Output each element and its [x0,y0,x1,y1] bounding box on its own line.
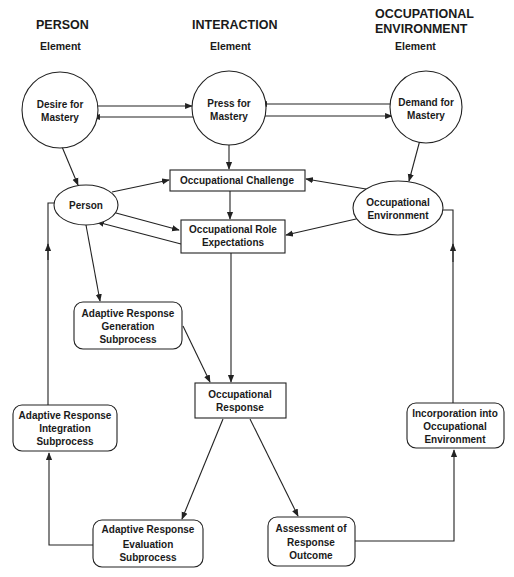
response-label-line2: Response [216,402,264,413]
evaluation-label-line3: Subprocess [119,552,177,563]
integration-label-line3: Subprocess [36,436,94,447]
edge-integration-to-person-line [48,203,55,405]
edge-person-to-challenge [112,180,169,192]
edge-evaluation-to-integration [49,453,93,545]
node-incorporation-into-environment: Incorporation into Occupational Environm… [407,403,504,448]
edge-demand-to-environment [409,140,420,181]
generation-label-line3: Subprocess [99,334,157,345]
environment-subtitle: Element [395,40,436,52]
evaluation-label-line1: Adaptive Response [102,524,195,535]
response-label-line1: Occupational [208,389,272,400]
node-press-for-mastery: Press for Mastery [192,71,266,145]
interaction-subtitle: Element [210,40,251,52]
person-label: Person [69,200,103,211]
node-person: Person [54,185,118,225]
occupational-adaptation-diagram: PERSON Element INTERACTION Element OCCUP… [0,0,514,577]
environment-label-line2: Environment [367,210,429,221]
interaction-title: INTERACTION [192,18,277,32]
desire-label-line2: Mastery [41,112,79,123]
person-subtitle: Element [40,40,81,52]
node-occupational-environment: Occupational Environment [353,181,443,235]
role-label-line2: Expectations [202,237,265,248]
assessment-label-line3: Outcome [289,550,333,561]
edge-environment-to-role [286,219,356,235]
incorporation-label-line3: Environment [424,434,486,445]
column-header-person: PERSON Element [36,18,89,52]
generation-label-line1: Adaptive Response [82,308,175,319]
edge-environment-to-challenge [306,179,366,189]
edge-person-to-generation [86,225,100,301]
column-header-environment: OCCUPATIONAL ENVIRONMENT Element [375,7,474,52]
environment-label-line1: Occupational [366,197,430,208]
demand-label-line1: Demand for [398,97,454,108]
edge-role-to-person [97,222,181,244]
integration-label-line1: Adaptive Response [19,410,112,421]
node-occupational-challenge: Occupational Challenge [170,170,305,191]
edge-assessment-to-incorporation [355,450,454,541]
environment-title-line2: ENVIRONMENT [375,22,468,36]
column-header-interaction: INTERACTION Element [192,18,277,52]
edge-response-to-assessment [250,419,298,516]
edge-generation-to-response [183,326,210,382]
assessment-label-line2: Response [287,537,335,548]
integration-label-line2: Integration [39,423,91,434]
press-label-line2: Mastery [210,111,248,122]
node-adaptive-response-evaluation: Adaptive Response Evaluation Subprocess [93,520,203,567]
node-demand-for-mastery: Demand for Mastery [390,71,462,143]
environment-title-line1: OCCUPATIONAL [375,7,474,21]
person-title: PERSON [36,18,89,32]
demand-label-line2: Mastery [407,110,445,121]
node-adaptive-response-integration: Adaptive Response Integration Subprocess [13,405,117,451]
node-occupational-role-expectations: Occupational Role Expectations [181,220,285,253]
evaluation-label-line2: Evaluation [123,539,174,550]
desire-label-line1: Desire for [37,99,84,110]
incorporation-label-line2: Occupational [423,421,487,432]
press-label-line1: Press for [207,98,250,109]
role-label-line1: Occupational Role [189,224,277,235]
node-occupational-response: Occupational Response [195,383,286,418]
assessment-label-line1: Assessment of [275,523,347,534]
challenge-label: Occupational Challenge [180,175,294,186]
edge-person-to-role [116,213,179,230]
node-desire-for-mastery: Desire for Mastery [22,72,98,148]
generation-label-line2: Generation [102,321,155,332]
incorporation-label-line1: Incorporation into [412,408,498,419]
edge-incorporation-to-environment-line [443,210,453,403]
node-adaptive-response-generation: Adaptive Response Generation Subprocess [74,302,182,349]
node-assessment-of-response-outcome: Assessment of Response Outcome [268,517,355,566]
edge-response-to-evaluation [182,419,223,519]
